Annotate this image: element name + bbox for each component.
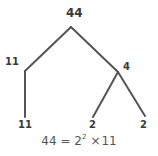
node-4: 4	[123, 62, 130, 72]
equation-equals: =	[60, 134, 70, 148]
edge-4-to-2-left	[93, 72, 118, 117]
edge-4-to-2-right	[118, 72, 145, 116]
edge-44-to-11	[25, 27, 71, 71]
equation-times: ×	[90, 134, 100, 148]
equation-exponent: 2	[82, 133, 86, 141]
leaf-node-11: 11	[18, 120, 32, 130]
edge-44-to-4	[71, 27, 118, 72]
equation-factor: 11	[101, 134, 116, 148]
leaf-node-2-left: 2	[89, 120, 96, 130]
equation-lhs: 44	[41, 134, 56, 148]
root-node-44: 44	[66, 7, 83, 19]
node-11: 11	[5, 57, 19, 67]
prime-factorization-equation: 44 = 22×11	[0, 135, 158, 147]
factor-tree-edges	[0, 0, 158, 156]
equation-base: 2	[74, 134, 82, 148]
leaf-node-2-right: 2	[140, 120, 147, 130]
